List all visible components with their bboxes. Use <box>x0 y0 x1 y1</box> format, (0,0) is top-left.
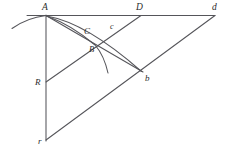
vertex-label-C: C <box>84 27 90 36</box>
arc-below-B <box>96 46 109 74</box>
diagonal-line-r-d <box>46 16 215 141</box>
vertex-label-c-lower: c <box>110 23 114 31</box>
vertex-label-R: R <box>35 78 41 87</box>
vertex-label-r-lower: r <box>38 137 42 146</box>
arc-left-of-A <box>12 16 46 29</box>
vertex-label-D: D <box>136 3 143 13</box>
vertex-label-A: A <box>42 3 48 13</box>
geometry-figure: A D d C c B b R r <box>0 0 229 154</box>
vertex-label-d-lower: d <box>212 3 217 13</box>
vertex-label-b-lower: b <box>145 74 150 83</box>
vertex-label-B: B <box>89 45 94 54</box>
